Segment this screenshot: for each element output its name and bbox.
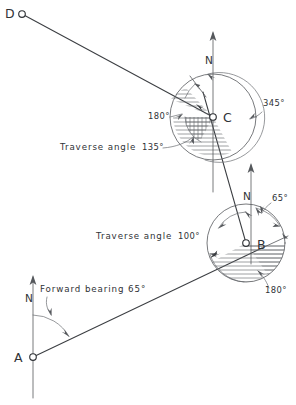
hatch-sector-b-lower xyxy=(200,246,292,282)
forward-bearing-label-a: Forward bearing 65° xyxy=(40,284,146,294)
station-d-group xyxy=(19,11,26,18)
north-label-a: N xyxy=(25,292,33,304)
traverse-angle-label-c: Traverse angle xyxy=(59,142,136,152)
station-label-c: C xyxy=(223,110,232,125)
bearing-345-label-c: 345° xyxy=(263,98,285,108)
bearing-arc-c-345-arrowhead xyxy=(207,74,215,81)
traverse-angle-label-b: Traverse angle xyxy=(95,231,172,241)
station-label-d: D xyxy=(5,6,15,21)
traverse-angle-value-c: 135° xyxy=(142,142,164,152)
north-label-c: N xyxy=(205,54,213,66)
bearing-65-label-b: 65° xyxy=(272,193,288,203)
bearing-180-label-c: 180° xyxy=(148,111,170,121)
onward-bearing-tick-arrowhead-b xyxy=(282,233,288,242)
bearing-arc-c-upper xyxy=(185,84,195,98)
traverse-legs xyxy=(22,14,262,357)
station-dot-c xyxy=(210,114,217,121)
leg-c-d xyxy=(22,14,213,117)
station-dot-a xyxy=(30,354,37,361)
bearing-180-label-b: 180° xyxy=(265,285,287,295)
station-label-a: A xyxy=(14,350,23,365)
hatch-sector-b-right xyxy=(200,230,292,274)
survey-diagram-canvas: D C B A N N N Forward bearing 65° Traver… xyxy=(0,0,296,405)
station-label-b: B xyxy=(257,237,266,252)
station-dot-b xyxy=(243,240,250,247)
bearing-arc-a xyxy=(33,315,69,337)
traverse-angle-value-b: 100° xyxy=(178,231,200,241)
survey-diagram: D C B A N N N Forward bearing 65° Traver… xyxy=(0,0,296,405)
hatch-sector-c-lower xyxy=(165,118,262,158)
station-b-group xyxy=(200,163,292,288)
bearing-arc-arrowhead-a xyxy=(62,329,70,337)
diagram-text-labels: D C B A N N N Forward bearing 65° Traver… xyxy=(5,6,288,365)
north-label-b: N xyxy=(243,190,251,202)
leg-a-b xyxy=(33,248,262,357)
traverse-angle-leader-arrowhead-c xyxy=(189,136,194,144)
station-dot-d xyxy=(19,11,26,18)
